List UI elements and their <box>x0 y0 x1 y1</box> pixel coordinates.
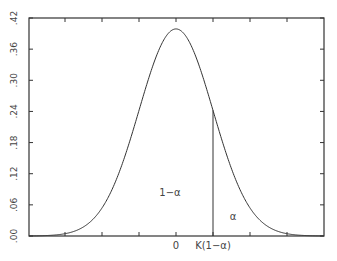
y-tick-label: .24 <box>9 104 19 119</box>
y-tick-label: .00 <box>9 229 19 244</box>
x-tick-label: 0 <box>173 240 179 251</box>
y-tick-label: .36 <box>9 42 19 57</box>
normal-density-chart: .00.06.12.18.24.30.36.42 0K(1−α) 1−α α <box>0 0 337 261</box>
y-tick-label: .30 <box>9 73 19 88</box>
annotation-one-minus-alpha: 1−α <box>159 187 181 198</box>
y-axis-ticks: .00.06.12.18.24.30.36.42 <box>9 11 324 243</box>
x-axis-ticks: 0K(1−α) <box>65 18 287 251</box>
x-tick-label: K(1−α) <box>195 240 231 251</box>
y-tick-label: .12 <box>9 167 19 181</box>
y-tick-label: .18 <box>9 135 19 150</box>
y-tick-label: .42 <box>9 11 19 25</box>
density-curve <box>29 29 324 236</box>
plot-frame <box>29 18 324 236</box>
annotation-alpha: α <box>230 211 237 222</box>
y-tick-label: .06 <box>9 197 19 212</box>
